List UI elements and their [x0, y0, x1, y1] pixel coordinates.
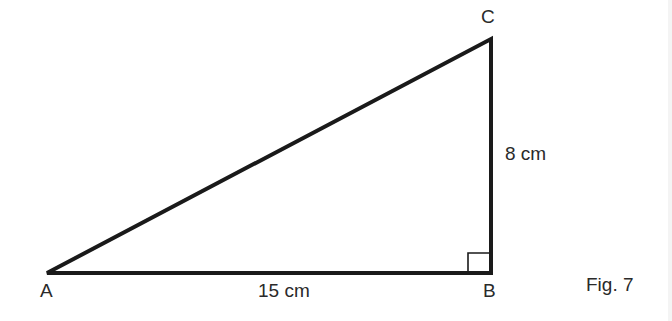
- vertex-label-a: A: [40, 281, 53, 300]
- side-label-ab: 15 cm: [258, 281, 310, 300]
- vertex-label-c: C: [481, 7, 495, 26]
- page-edge: [668, 0, 672, 321]
- right-angle-marker: [468, 253, 491, 273]
- side-label-bc: 8 cm: [505, 144, 546, 163]
- vertex-label-b: B: [483, 281, 496, 300]
- figure-caption: Fig. 7: [586, 275, 634, 294]
- triangle-abc: [47, 39, 491, 273]
- triangle-diagram: [0, 0, 672, 321]
